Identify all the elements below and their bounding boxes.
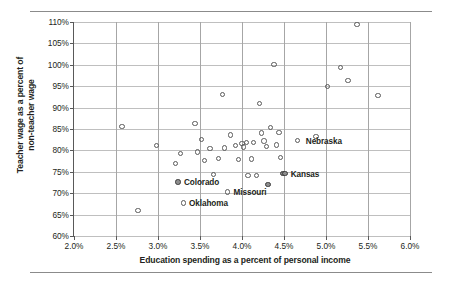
x-axis-tick-mark bbox=[326, 236, 327, 240]
x-axis-tick-label: 4.0% bbox=[233, 241, 252, 251]
x-axis-tick-label: 4.5% bbox=[275, 241, 294, 251]
y-axis-tick-mark bbox=[70, 215, 74, 216]
scatter-point bbox=[249, 156, 254, 161]
point-label-colorado: Colorado bbox=[184, 178, 219, 187]
scatter-point bbox=[199, 137, 204, 142]
scatter-point bbox=[254, 173, 259, 178]
scatter-point bbox=[264, 144, 269, 149]
scatter-point bbox=[154, 143, 159, 148]
y-axis-tick-mark bbox=[70, 150, 74, 151]
y-axis-tick-label: 105% bbox=[48, 38, 69, 48]
gridline-vertical bbox=[116, 22, 117, 236]
scatter-point bbox=[251, 140, 256, 145]
scatter-point bbox=[245, 173, 250, 178]
scatter-point bbox=[295, 138, 300, 143]
scatter-point bbox=[233, 143, 238, 148]
scatter-point bbox=[236, 157, 241, 162]
x-axis-tick-label: 6.0% bbox=[401, 241, 420, 251]
scatter-point bbox=[135, 208, 140, 213]
gridline-vertical bbox=[368, 22, 369, 236]
scatter-point bbox=[195, 149, 200, 154]
scatter-point bbox=[220, 92, 225, 97]
y-axis-tick-mark bbox=[70, 86, 74, 87]
scatter-point bbox=[173, 161, 178, 166]
y-axis-tick-label: 75% bbox=[52, 167, 69, 177]
scatter-point bbox=[261, 138, 266, 143]
gridline-vertical bbox=[410, 22, 411, 236]
y-axis-tick-label: 95% bbox=[52, 81, 69, 91]
gridline-vertical bbox=[242, 22, 243, 236]
x-axis-tick-mark bbox=[284, 236, 285, 240]
x-axis-tick-mark bbox=[410, 236, 411, 240]
x-axis-tick-label: 3.5% bbox=[191, 241, 210, 251]
y-axis-tick-mark bbox=[70, 193, 74, 194]
x-axis-tick-label: 3.0% bbox=[149, 241, 168, 251]
scatter-point bbox=[375, 93, 380, 98]
y-axis-tick-mark bbox=[70, 129, 74, 130]
scatter-point bbox=[241, 144, 246, 149]
y-axis-tick-label: 85% bbox=[52, 124, 69, 134]
scatter-point bbox=[257, 101, 262, 106]
y-axis-tick-mark bbox=[70, 108, 74, 109]
point-label-kansas: Kansas bbox=[291, 169, 320, 178]
scatter-point bbox=[202, 158, 207, 163]
x-axis-tick-label: 2.0% bbox=[65, 241, 84, 251]
scatter-point bbox=[181, 200, 186, 205]
x-axis-tick-label: 5.0% bbox=[317, 241, 336, 251]
point-label-missouri: Missouri bbox=[234, 187, 267, 196]
x-axis-tick-mark bbox=[200, 236, 201, 240]
top-divider-rule bbox=[30, 11, 432, 12]
scatter-point bbox=[192, 121, 197, 126]
scatter-point bbox=[225, 189, 230, 194]
scatter-point bbox=[228, 132, 233, 137]
y-axis-tick-label: 100% bbox=[48, 60, 69, 70]
scatter-point bbox=[175, 179, 180, 184]
scatter-point bbox=[274, 142, 279, 147]
y-axis-tick-mark bbox=[70, 43, 74, 44]
point-label-nebraska: Nebraska bbox=[306, 136, 342, 145]
x-axis-tick-label: 2.5% bbox=[107, 241, 126, 251]
y-axis-tick-mark bbox=[70, 22, 74, 23]
scatter-point bbox=[325, 84, 330, 89]
x-axis-title: Education spending as a percent of perso… bbox=[60, 255, 430, 265]
plot-area: 60%65%70%75%80%85%90%95%100%105%110% 2.0… bbox=[74, 22, 410, 236]
gridline-vertical bbox=[158, 22, 159, 236]
scatter-point bbox=[338, 65, 343, 70]
scatter-point bbox=[216, 156, 221, 161]
y-axis-tick-mark bbox=[70, 172, 74, 173]
y-axis-tick-label: 60% bbox=[52, 231, 69, 241]
scatter-point bbox=[345, 78, 350, 83]
y-axis-title: Teacher wage as a percent of non-teacher… bbox=[15, 17, 37, 213]
point-label-oklahoma: Oklahoma bbox=[189, 199, 228, 208]
x-axis-tick-mark bbox=[74, 236, 75, 240]
scatter-point bbox=[259, 130, 264, 135]
y-axis-tick-label: 90% bbox=[52, 103, 69, 113]
y-axis-tick-label: 80% bbox=[52, 145, 69, 155]
scatter-point bbox=[178, 151, 183, 156]
y-axis-tick-label: 70% bbox=[52, 188, 69, 198]
scatter-point bbox=[119, 124, 124, 129]
x-axis-tick-mark bbox=[158, 236, 159, 240]
x-axis-tick-label: 5.5% bbox=[359, 241, 378, 251]
scatter-point bbox=[354, 22, 359, 27]
bottom-divider-rule bbox=[30, 272, 432, 273]
scatter-point bbox=[276, 130, 281, 135]
x-axis-tick-mark bbox=[242, 236, 243, 240]
scatter-point bbox=[271, 62, 276, 67]
scatter-point bbox=[278, 155, 283, 160]
gridline-vertical bbox=[284, 22, 285, 236]
scatter-point bbox=[282, 171, 287, 176]
scatter-point bbox=[222, 145, 227, 150]
scatter-point bbox=[244, 140, 249, 145]
gridline-vertical bbox=[326, 22, 327, 236]
y-axis-tick-label: 110% bbox=[48, 17, 69, 27]
y-axis-tick-mark bbox=[70, 65, 74, 66]
y-axis-tick-label: 65% bbox=[52, 210, 69, 220]
chart-figure: Teacher wage as a percent of non-teacher… bbox=[0, 0, 460, 284]
x-axis-tick-mark bbox=[368, 236, 369, 240]
x-axis-tick-mark bbox=[116, 236, 117, 240]
